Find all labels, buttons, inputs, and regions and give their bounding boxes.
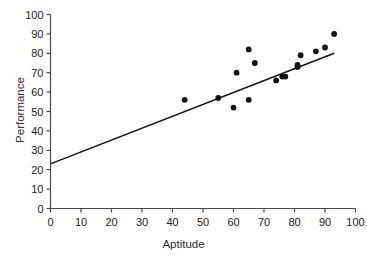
- x-tick-label: 10: [75, 217, 87, 228]
- data-point: [234, 70, 240, 76]
- data-point: [322, 45, 328, 51]
- y-tick-label: 90: [8, 28, 44, 39]
- x-tick-label: 70: [258, 217, 270, 228]
- data-point: [295, 64, 301, 70]
- data-point: [246, 47, 252, 53]
- trendline: [51, 53, 335, 164]
- scatter-chart: 0102030405060708090100 01020304050607080…: [0, 0, 367, 259]
- y-tick-label: 20: [8, 164, 44, 175]
- data-point: [252, 60, 258, 66]
- x-axis-title: Aptitude: [0, 238, 367, 250]
- x-tick-label: 100: [346, 217, 364, 228]
- data-points: [182, 31, 337, 111]
- data-point: [215, 95, 221, 101]
- data-point: [246, 97, 252, 103]
- y-axis-title: Performance: [14, 60, 26, 160]
- data-point: [182, 97, 188, 103]
- x-tick-label: 40: [166, 217, 178, 228]
- axes: [47, 15, 356, 213]
- data-point: [273, 78, 279, 84]
- x-tick-label: 0: [47, 217, 53, 228]
- x-tick-label: 60: [227, 217, 239, 228]
- data-point: [313, 48, 319, 54]
- data-point: [282, 74, 288, 80]
- data-point: [298, 52, 304, 58]
- x-tick-label: 50: [197, 217, 209, 228]
- data-point: [331, 31, 337, 37]
- data-point: [231, 105, 237, 111]
- y-tick-label: 10: [8, 184, 44, 195]
- x-tick-label: 90: [319, 217, 331, 228]
- x-tick-label: 20: [105, 217, 117, 228]
- y-tick-label: 0: [8, 203, 44, 214]
- chart-canvas: [0, 0, 367, 259]
- x-tick-label: 30: [136, 217, 148, 228]
- y-tick-label: 80: [8, 48, 44, 59]
- y-tick-label: 100: [8, 9, 44, 20]
- x-tick-label: 80: [288, 217, 300, 228]
